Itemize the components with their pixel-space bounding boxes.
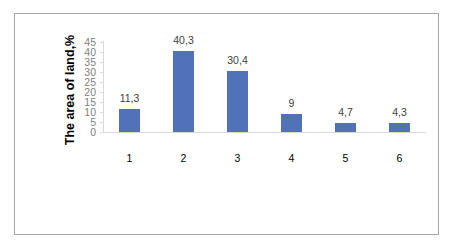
y-axis-line <box>103 41 104 132</box>
y-tick-label: 15 <box>70 97 96 107</box>
data-label: 11,3 <box>110 92 150 104</box>
y-tick-label: 10 <box>70 107 96 117</box>
y-tick-label: 45 <box>70 37 96 47</box>
y-tick-label: 35 <box>70 57 96 67</box>
bar-chart: The area of land,% 051015202530354045 11… <box>0 0 455 246</box>
y-tick-mark <box>100 92 103 93</box>
y-tick-mark <box>100 52 103 53</box>
x-tick-label: 6 <box>385 152 415 164</box>
y-tick-mark <box>100 72 103 73</box>
bar-4 <box>281 114 302 132</box>
x-tick-label: 5 <box>331 152 361 164</box>
y-tick-mark <box>100 112 103 113</box>
y-tick-label: 30 <box>70 67 96 77</box>
bar-2 <box>173 51 194 132</box>
x-axis-line <box>103 132 426 133</box>
y-tick-label: 40 <box>70 47 96 57</box>
y-tick-label: 20 <box>70 87 96 97</box>
data-label: 30,4 <box>218 54 258 66</box>
bar-3 <box>227 71 248 132</box>
x-tick-label: 4 <box>277 152 307 164</box>
x-tick-label: 1 <box>115 152 145 164</box>
data-label: 9 <box>272 97 312 109</box>
data-label: 4,3 <box>380 106 420 118</box>
bar-6 <box>389 123 410 132</box>
y-tick-mark <box>100 62 103 63</box>
y-tick-mark <box>100 132 103 133</box>
y-tick-label: 5 <box>70 117 96 127</box>
x-tick-label: 2 <box>169 152 199 164</box>
x-tick-label: 3 <box>223 152 253 164</box>
bar-1 <box>119 109 140 132</box>
y-tick-label: 25 <box>70 77 96 87</box>
y-tick-mark <box>100 122 103 123</box>
y-tick-mark <box>100 82 103 83</box>
data-label: 4,7 <box>326 106 366 118</box>
y-tick-label: 0 <box>70 127 96 137</box>
y-tick-mark <box>100 102 103 103</box>
data-label: 40,3 <box>164 34 204 46</box>
y-tick-mark <box>100 42 103 43</box>
bar-5 <box>335 123 356 132</box>
